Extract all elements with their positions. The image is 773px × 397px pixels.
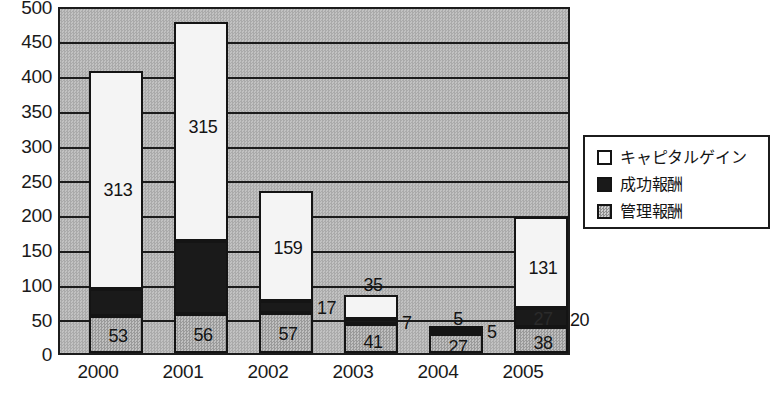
bar-value-label: 5: [487, 323, 497, 341]
bar-segment-capital-gain-2001[interactable]: 315: [174, 22, 228, 241]
y-tick-label: 350: [0, 102, 52, 121]
y-tick-label: 250: [0, 172, 52, 191]
bar-segment-success-fee-2000[interactable]: [89, 289, 143, 316]
bar-segment-success-fee-2004[interactable]: 5: [429, 330, 483, 334]
x-tick-label-2005: 2005: [480, 361, 566, 382]
x-tick-label-2000: 2000: [55, 361, 141, 382]
y-tick-label: 150: [0, 241, 52, 260]
bar-group-2005[interactable]: 38 27 131 38 20: [514, 217, 568, 353]
bar-value-label: 35: [346, 276, 400, 294]
bar-value-label: 313: [91, 181, 145, 199]
legend-label: キャピタルゲイン: [620, 149, 746, 166]
bar-segment-management-fee-2003[interactable]: 41: [344, 324, 398, 353]
bar-group-2002[interactable]: 57 17 159: [259, 191, 313, 353]
y-tick-label: 50: [0, 311, 52, 330]
gridline-450: [60, 42, 568, 44]
x-tick-label-2001: 2001: [140, 361, 226, 382]
bar-segment-success-fee-2002[interactable]: 17: [259, 301, 313, 313]
bar-value-label: 17: [317, 299, 336, 317]
y-tick-label: 100: [0, 276, 52, 295]
legend-label: 成功報酬: [620, 176, 683, 193]
legend-swatch-capital-gain-icon: [597, 150, 612, 165]
bar-value-label: 53: [91, 327, 145, 345]
y-tick-label: 200: [0, 206, 52, 225]
bar-group-2004[interactable]: 27 5 5: [429, 327, 483, 353]
bar-value-label: 27: [431, 338, 485, 356]
y-tick-label: 450: [0, 32, 52, 51]
y-tick-label: 300: [0, 137, 52, 156]
bar-segment-success-fee-2001[interactable]: [174, 241, 228, 314]
bar-group-2003[interactable]: 41 7 35: [344, 295, 398, 353]
bar-segment-capital-gain-2000[interactable]: 313: [89, 71, 143, 289]
stacked-bar-chart: 500 450 400 350 300 250 200 150 100 50 0…: [0, 0, 773, 397]
legend-swatch-management-fee-icon: [597, 204, 612, 219]
legend: キャピタルゲイン 成功報酬 管理報酬: [583, 135, 770, 229]
bar-segment-management-fee-2004[interactable]: 27: [429, 334, 483, 353]
y-tick-label: 0: [0, 345, 52, 364]
bar-segment-capital-gain-2004[interactable]: 5: [429, 326, 483, 330]
bar-value-label: 56: [176, 326, 230, 344]
x-tick-label-2004: 2004: [395, 361, 481, 382]
legend-item-capital-gain[interactable]: キャピタルゲイン: [597, 144, 768, 171]
bar-segment-success-fee-2005[interactable]: 27: [514, 308, 568, 327]
y-tick-label: 400: [0, 67, 52, 86]
x-tick-label-2002: 2002: [225, 361, 311, 382]
bar-group-2000[interactable]: 53 313: [89, 71, 143, 353]
bar-group-2001[interactable]: 56 315: [174, 22, 228, 353]
bar-segment-management-fee-2002[interactable]: 57: [259, 313, 313, 353]
y-tick-label: 500: [0, 0, 52, 17]
bar-value-label: 38: [516, 334, 570, 352]
bar-value-label: 41: [346, 333, 400, 351]
bar-value-label: 57: [261, 325, 315, 343]
bar-value-label: 315: [176, 118, 230, 136]
bar-segment-capital-gain-2005[interactable]: 131 38: [514, 217, 568, 308]
bar-segment-management-fee-2005[interactable]: 38: [514, 327, 568, 353]
legend-item-management-fee[interactable]: 管理報酬: [597, 198, 768, 225]
bar-value-label-20: 20: [570, 311, 589, 329]
bar-value-label: 7: [402, 314, 412, 332]
legend-swatch-success-fee-icon: [597, 177, 612, 192]
bar-segment-capital-gain-2002[interactable]: 159: [259, 191, 313, 301]
legend-label: 管理報酬: [620, 203, 683, 220]
bar-value-label: 131: [516, 259, 570, 277]
plot-area: 53 313 56 315 57 17 15: [58, 7, 570, 355]
bar-segment-management-fee-2001[interactable]: 56: [174, 314, 228, 353]
bar-value-label: 27: [516, 310, 570, 328]
bar-value-label: 159: [261, 239, 315, 257]
x-tick-label-2003: 2003: [310, 361, 396, 382]
bar-segment-success-fee-2003[interactable]: 7: [344, 319, 398, 324]
bar-segment-capital-gain-2003[interactable]: 35: [344, 295, 398, 319]
bar-segment-management-fee-2000[interactable]: 53: [89, 316, 143, 353]
legend-item-success-fee[interactable]: 成功報酬: [597, 171, 768, 198]
